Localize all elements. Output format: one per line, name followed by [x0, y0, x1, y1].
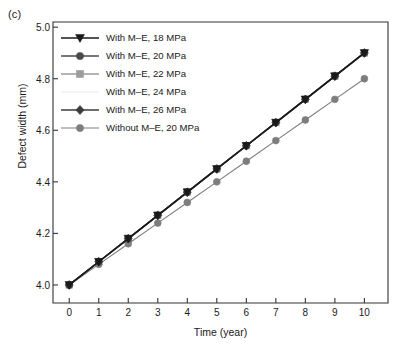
legend-key-circle-icon [60, 121, 100, 135]
data-point-marker [302, 117, 309, 124]
legend-item[interactable]: With M–E, 20 MPa [60, 47, 199, 65]
legend-label: Without M–E, 20 MPa [106, 121, 199, 135]
legend-key-circle-icon [60, 49, 100, 63]
data-point-marker [77, 71, 84, 78]
legend-label: With M–E, 26 MPa [106, 103, 186, 117]
data-point-marker [76, 124, 83, 131]
legend-label: With M–E, 18 MPa [106, 31, 186, 45]
legend-item[interactable]: With M–E, 22 MPa [60, 65, 199, 83]
figure-panel-c: (c) Defect width (mm) Time (year) 4.04.2… [0, 0, 403, 349]
legend-item[interactable]: With M–E, 26 MPa [60, 101, 199, 119]
legend-key-diamond-icon [60, 103, 100, 117]
data-point-marker [361, 75, 368, 82]
data-point-marker [76, 105, 84, 114]
legend-label: With M–E, 22 MPa [106, 67, 186, 81]
legend-label: With M–E, 20 MPa [106, 49, 186, 63]
legend-key-triangle-down-icon [60, 31, 100, 45]
data-point-marker [213, 178, 220, 185]
legend-label: With M–E, 24 MPa [106, 85, 186, 99]
data-point-marker [272, 137, 279, 144]
legend-item[interactable]: Without M–E, 20 MPa [60, 119, 199, 137]
legend-item[interactable]: With M–E, 24 MPa [60, 83, 199, 101]
data-point-marker [331, 96, 338, 103]
data-point-marker [243, 158, 250, 165]
legend-key-none-icon [60, 85, 100, 99]
data-point-marker [76, 52, 83, 59]
data-point-marker [184, 199, 191, 206]
legend-key-square-icon [60, 67, 100, 81]
legend-item[interactable]: With M–E, 18 MPa [60, 29, 199, 47]
data-point-marker [154, 220, 161, 227]
legend: With M–E, 18 MPaWith M–E, 20 MPaWith M–E… [60, 29, 199, 137]
